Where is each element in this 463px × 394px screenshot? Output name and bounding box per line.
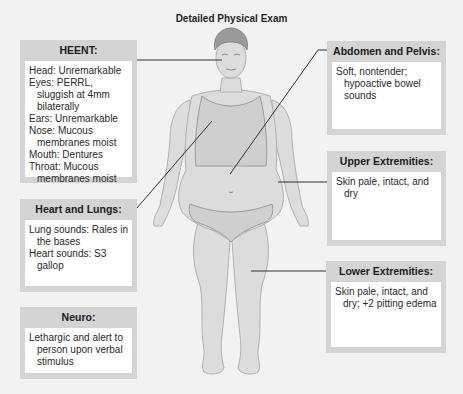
heart-lungs-header: Heart and Lungs: [25,199,132,220]
lower-extremities-body: Skin pale, intact, and dry; +2 pitting e… [331,282,441,347]
abdomen-pelvis-box: Abdomen and Pelvis: Soft, nontender; hyp… [327,41,446,135]
upper-extremities-header: Upper Extremities: [332,151,441,172]
heent-line: Nose: Mucous membranes moist [29,125,128,149]
upper-extremities-line: Skin pale, intact, and dry [336,176,437,200]
neck [220,78,242,92]
upper-extremities-box: Upper Extremities: Skin pale, intact, an… [327,151,446,246]
heart-lungs-line: Lung sounds: Rales in the bases [29,224,128,248]
heent-line: Throat: Mucous membranes moist [29,161,128,185]
figure-body [154,38,309,374]
neuro-box: Neuro: Lethargic and alert to person upo… [20,307,137,379]
neuro-body: Lethargic and alert to person upon verba… [25,328,132,373]
neuro-header: Neuro: [25,307,132,328]
right-leg [232,222,268,374]
heent-line: Mouth: Dentures [29,149,128,161]
heent-box: HEENT: Head: Unremarkable Eyes: PERRL, s… [20,40,137,183]
heent-line: Head: Unremarkable [29,65,128,77]
tank-top [195,96,267,166]
abdomen-pelvis-body: Soft, nontender; hypoactive bowel sounds [332,62,441,129]
heart-lungs-box: Heart and Lungs: Lung sounds: Rales in t… [20,199,137,292]
upper-extremities-body: Skin pale, intact, and dry [332,172,441,240]
abdomen-pelvis-line: Soft, nontender; hypoactive bowel sounds [336,66,437,102]
heart-lungs-line: Heart sounds: S3 gallop [29,248,128,272]
heent-line: Ears: Unremarkable [29,113,128,125]
lower-extremities-box: Lower Extremities: Skin pale, intact, an… [326,261,446,353]
heent-line: Eyes: PERRL, sluggish at 4mm bilaterally [29,77,128,113]
neuro-line: Lethargic and alert to person upon verba… [29,332,128,368]
lower-extremities-header: Lower Extremities: [331,261,441,282]
abdomen-pelvis-header: Abdomen and Pelvis: [332,41,441,62]
lower-extremities-line: Skin pale, intact, and dry; +2 pitting e… [335,286,437,310]
heent-body: Head: Unremarkable Eyes: PERRL, sluggish… [25,61,132,177]
heent-header: HEENT: [25,40,132,61]
heart-lungs-body: Lung sounds: Rales in the bases Heart so… [25,220,132,286]
left-leg [194,222,230,374]
